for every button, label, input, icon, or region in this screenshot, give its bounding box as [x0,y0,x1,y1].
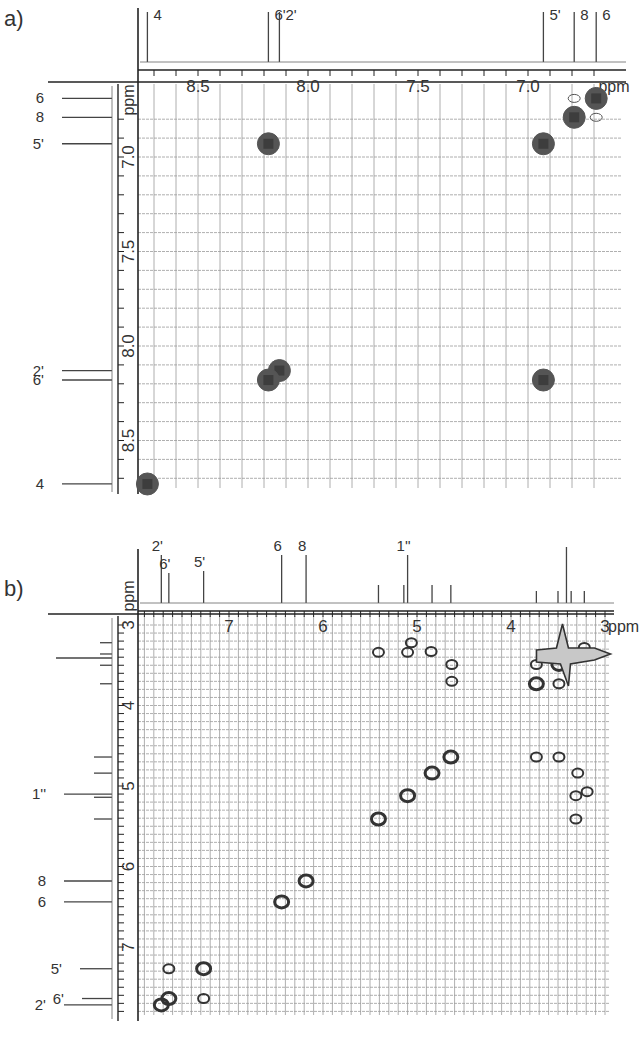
cross-peak [553,679,564,688]
peak-label: 5' [33,135,44,152]
y-tick-label: 7.5 [119,240,138,264]
x-tick-label: 7.0 [516,77,540,96]
cross-peak [426,647,437,656]
peak-label: 6 [36,89,44,106]
peak-label: 6' [53,990,64,1007]
peak-label: 6' [274,6,285,23]
peak-label: 5' [194,553,205,570]
x-tick-label: 7 [224,617,233,636]
x-tick-label: 4 [506,617,515,636]
cross-peak [563,106,585,128]
peak-label: 2' [33,362,44,379]
peak-label: 2' [35,996,46,1013]
y-unit-label: ppm [120,580,137,611]
x-tick-label: 6 [318,617,327,636]
x-tick-label: 7.5 [406,77,430,96]
y-tick-label: 3 [119,620,138,629]
peak-label: 8 [580,6,588,23]
peak-label: 8 [36,108,44,125]
x-tick-label: 8.0 [296,77,320,96]
cross-peak [257,369,279,391]
cosy-panel-b: 76543ppm34567ppm2'2'6'6'5'5'66881''1'' [32,537,639,1021]
x-tick-label: 5 [412,617,421,636]
cross-peak [425,767,439,779]
y-tick-label: 6 [119,862,138,871]
peak-label: 1'' [397,537,411,554]
y-unit-label: ppm [120,84,137,115]
peak-label: 8 [298,537,306,554]
cross-peak [532,369,554,391]
cross-peak [197,963,211,975]
peak-label: 6 [602,6,610,23]
y-tick-label: 4 [119,701,138,710]
cross-peak [570,791,581,800]
cross-peak [299,875,313,887]
y-tick-label: 5 [119,781,138,790]
cross-peak [371,813,385,825]
cross-peak [136,473,158,495]
x-unit-label: ppm [608,618,639,635]
cross-peak [446,660,457,669]
peak-label: 6 [38,893,46,910]
cross-peak [532,133,554,155]
y-tick-label: 7 [119,942,138,951]
cross-peak [582,787,593,796]
y-tick-label: 7.0 [119,145,138,169]
cross-peak [257,133,279,155]
y-tick-label: 8.5 [119,429,138,453]
cross-peak [444,751,458,763]
peak-label: 8 [38,872,46,889]
x-tick-label: 8.5 [186,77,210,96]
peak-label: 6' [159,555,170,572]
peak-label: 1'' [32,785,46,802]
cross-peak [585,87,607,109]
peak-label: 2' [152,537,163,554]
peak-label: 2' [285,6,296,23]
cross-peak [275,896,289,908]
peak-label: 5' [549,6,560,23]
cosy-panel-a: 8.58.07.57.0ppm7.07.58.08.5ppm446'6'2'2'… [33,6,630,495]
peak-label: 6 [273,537,281,554]
cross-peak [568,94,580,102]
cross-peak [572,769,583,778]
peak-label: 5' [51,960,62,977]
peak-label: 4 [36,475,44,492]
peak-label: 4 [153,6,161,23]
cross-peak [529,678,543,690]
cross-peak [570,815,581,824]
cross-peak [590,113,602,121]
cosy-figure: 8.58.07.57.0ppm7.07.58.08.5ppm446'6'2'2'… [0,0,644,1039]
y-tick-label: 8.0 [119,334,138,358]
